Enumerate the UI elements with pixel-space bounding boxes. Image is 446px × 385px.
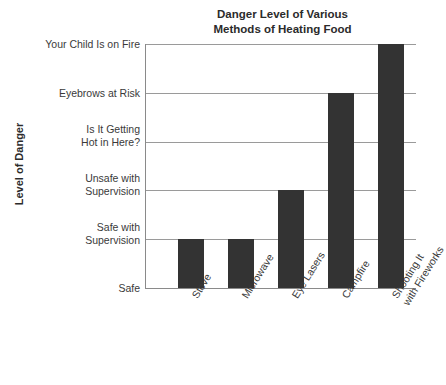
y-tick-label-your-child-is-on-fire: Your Child Is on Fire: [22, 38, 140, 51]
y-tick-label-safe-with-supervision: Safe with Supervision: [22, 221, 140, 246]
bar-eye-lasers[interactable]: [278, 190, 304, 288]
y-axis-tick-labels: Your Child Is on Fire Eyebrows at Risk I…: [22, 0, 140, 385]
bar-shooting-it-with-fireworks[interactable]: [378, 44, 404, 288]
bar-campfire[interactable]: [328, 93, 354, 288]
chart-title: Danger Level of Various Methods of Heati…: [150, 7, 415, 37]
x-axis-tick-labels: Stove Microwave Eye Lasers Campfire Shoo…: [145, 288, 445, 385]
chart-title-line-1: Danger Level of Various: [150, 7, 415, 22]
y-tick-label-eyebrows-at-risk: Eyebrows at Risk: [22, 87, 140, 100]
plot-area: [145, 44, 416, 289]
bars-layer: [146, 44, 416, 288]
y-tick-label-safe: Safe: [22, 282, 140, 295]
y-tick-label-is-it-getting-hot-in-here: Is It Getting Hot in Here?: [22, 123, 140, 148]
y-tick-label-unsafe-with-supervision: Unsafe with Supervision: [22, 172, 140, 197]
chart-title-line-2: Methods of Heating Food: [150, 22, 415, 37]
